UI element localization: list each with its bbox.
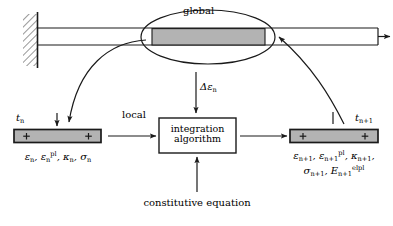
strain-increment-label: Δεn — [200, 82, 217, 93]
fixed-support — [23, 12, 38, 68]
state-bar-time-n-plus-1 — [290, 130, 378, 143]
state-variables-left: εn, εnpl, κn, σn — [25, 152, 92, 163]
eps-np1: εn+1 — [293, 150, 312, 161]
sigma-n: σn — [80, 151, 91, 162]
integration-point-segment — [152, 29, 265, 45]
state-bar-time-n — [14, 130, 101, 143]
time-n-label: tn — [16, 113, 24, 124]
state-variables-right-line-1: εn+1, εn+1pl, κn+1, — [293, 151, 374, 162]
eps-n: εn — [25, 151, 35, 162]
state-variables-right-line-2: σn+1, En+1elpl — [293, 166, 374, 177]
diagram-canvas — [0, 0, 393, 226]
right-curve-arrow — [279, 37, 344, 124]
global-label: global — [183, 6, 214, 17]
strain-increment-subscript: n — [213, 86, 217, 94]
E-elpl-np1: En+1elpl — [331, 165, 365, 176]
eps-pl-np1: εn+1pl — [319, 150, 345, 161]
kappa-n: κn — [63, 151, 74, 162]
eps-pl-n: εnpl — [41, 151, 57, 162]
sigma-np1: σn+1 — [304, 165, 325, 176]
time-n-subscript: n — [20, 117, 24, 125]
figure-root: global local Δεn constitutive equation i… — [0, 0, 393, 226]
local-label: local — [122, 110, 146, 121]
time-np1-subscript: n+1 — [359, 117, 373, 125]
box-line-2: algorithm — [171, 134, 225, 144]
kappa-np1: κn+1 — [351, 150, 372, 161]
constitutive-equation-label: constitutive equation — [143, 198, 250, 209]
time-n-plus-1-label: tn+1 — [355, 113, 373, 124]
integration-algorithm-text: integration algorithm — [171, 124, 225, 144]
state-variables-right: εn+1, εn+1pl, κn+1, σn+1, En+1elpl — [293, 151, 374, 176]
